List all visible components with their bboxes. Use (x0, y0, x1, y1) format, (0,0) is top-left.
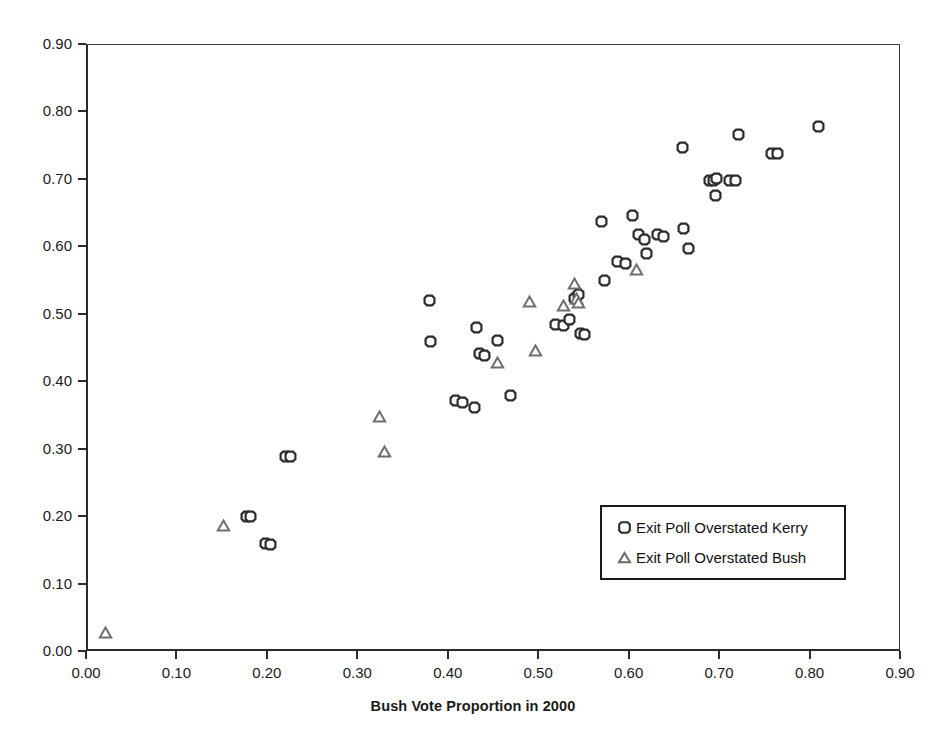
y-axis-tick (78, 448, 86, 450)
legend-item-bush: Exit Poll Overstated Bush (602, 542, 844, 572)
x-axis-tick (899, 651, 901, 659)
x-axis-tick-label: 0.20 (232, 664, 302, 681)
x-axis-tick-label: 0.90 (865, 664, 935, 681)
y-axis-tick-label: 0.40 (8, 372, 72, 389)
legend-item-kerry: Exit Poll Overstated Kerry (602, 512, 844, 542)
x-axis-tick (628, 651, 630, 659)
x-axis-title: Bush Vote Proportion in 2000 (0, 698, 946, 714)
x-axis-tick-label: 0.50 (503, 664, 573, 681)
scatter-chart: 0.000.100.200.300.400.500.600.700.800.90… (0, 0, 946, 750)
circle-marker-icon (616, 519, 633, 536)
y-axis-tick (78, 380, 86, 382)
y-axis-tick (78, 178, 86, 180)
triangle-marker-icon (616, 549, 633, 566)
y-axis-tick-label: 0.30 (8, 440, 72, 457)
x-axis-tick (85, 651, 87, 659)
legend-label-bush: Exit Poll Overstated Bush (636, 549, 806, 566)
y-axis-tick-label: 0.90 (8, 35, 72, 52)
x-axis-tick-label: 0.60 (594, 664, 664, 681)
y-axis-tick (78, 245, 86, 247)
x-axis-tick-label: 0.30 (322, 664, 392, 681)
x-axis-tick (809, 651, 811, 659)
y-axis-tick-label: 0.80 (8, 102, 72, 119)
legend-label-kerry: Exit Poll Overstated Kerry (636, 519, 808, 536)
x-axis-tick (175, 651, 177, 659)
y-axis-tick (78, 43, 86, 45)
chart-legend: Exit Poll Overstated Kerry Exit Poll Ove… (600, 505, 846, 580)
x-axis-tick (537, 651, 539, 659)
x-axis-tick (718, 651, 720, 659)
y-axis-tick-label: 0.20 (8, 507, 72, 524)
y-axis-tick (78, 583, 86, 585)
x-axis-tick-label: 0.40 (413, 664, 483, 681)
y-axis-tick (78, 110, 86, 112)
x-axis-tick (447, 651, 449, 659)
y-axis-tick-label: 0.10 (8, 575, 72, 592)
y-axis-tick-label: 0.50 (8, 305, 72, 322)
y-axis-tick-label: 0.60 (8, 237, 72, 254)
y-axis-tick-label: 0.70 (8, 170, 72, 187)
x-axis-tick (356, 651, 358, 659)
x-axis-tick-label: 0.10 (141, 664, 211, 681)
y-axis-tick (78, 313, 86, 315)
x-axis-tick-label: 0.00 (51, 664, 121, 681)
y-axis-tick-label: 0.00 (8, 642, 72, 659)
x-axis-tick (266, 651, 268, 659)
y-axis-tick (78, 515, 86, 517)
x-axis-tick-label: 0.70 (684, 664, 754, 681)
x-axis-tick-label: 0.80 (775, 664, 845, 681)
